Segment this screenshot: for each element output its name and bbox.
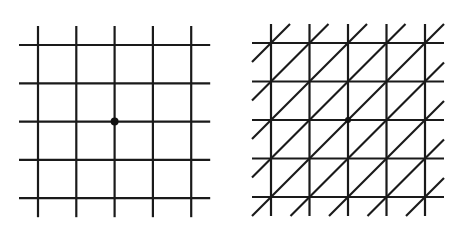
lattice-figure <box>0 0 459 230</box>
diagonal-line <box>252 24 329 101</box>
diagonal-line <box>368 140 445 217</box>
diagonal-line <box>291 63 445 217</box>
marked-vertex <box>111 118 119 126</box>
triangular-lattice-panel <box>252 24 444 216</box>
marked-vertex <box>345 117 351 123</box>
diagonal-line <box>252 24 406 178</box>
square-lattice-panel <box>19 26 210 217</box>
